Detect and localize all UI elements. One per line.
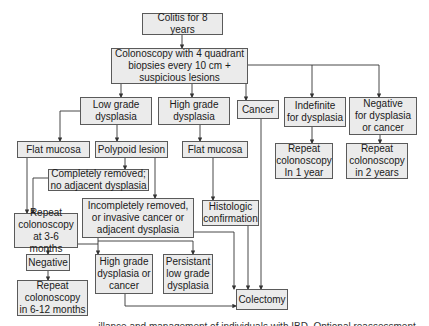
node-flat-mucosa-left: Flat mucosa [17,141,90,158]
node-polypoid-lesion: Polypoid lesion [95,141,168,158]
node-low-grade-dysplasia: Low grade dysplasia [80,97,152,125]
node-repeat-1-year: Repeat colonoscopy In 1 year [275,143,333,179]
node-flat-mucosa-center: Flat mucosa [182,141,248,158]
node-repeat-6-12-months: Repeat colonoscopy in 6-12 months [17,280,88,316]
node-colonoscopy: Colonoscopy with 4 quadrant biopsies eve… [111,48,248,84]
node-negative-dysplasia: Negative for dysplasia or cancer [349,97,417,135]
node-persistant-lgd: Persistant low grade dysplasia [163,254,213,294]
node-high-grade-dysplasia: High grade dysplasia [158,97,230,125]
node-completely-removed: Completely removed; no adjacent dysplasi… [48,169,149,191]
figure-caption: ...illance and management of individuals… [0,317,429,326]
node-cancer: Cancer [237,100,279,119]
node-hgd-or-cancer: High grade dysplasia or cancer [95,254,153,294]
node-colectomy: Colectomy [236,289,288,310]
flowchart-canvas: Colitis for 8 years Colonoscopy with 4 q… [0,0,429,326]
node-repeat-2-years: Repeat colonoscopy in 2 years [346,143,408,179]
node-negative-result: Negative [26,254,70,271]
node-incompletely-removed: Incompletely removed, or invasive cancer… [82,198,194,238]
node-histologic-confirmation: Histologic confirmation [202,200,259,226]
node-colitis: Colitis for 8 years [142,13,223,35]
node-repeat-3-6-months: Repeat colonoscopy at 3-6 months [14,213,78,248]
node-indefinite-dysplasia: Indefinite for dysplasia [284,97,346,127]
